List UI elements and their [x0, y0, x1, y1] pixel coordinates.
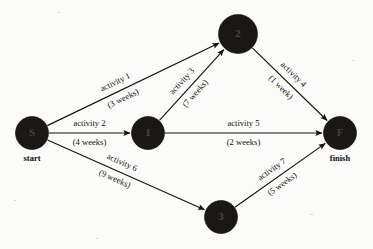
edge-label-group: activity 4(1 week)	[266, 59, 309, 102]
node-label-S: S	[29, 126, 35, 138]
node-1[interactable]: 1	[132, 117, 165, 150]
edge-activity-3	[159, 50, 223, 121]
node-label-F: F	[337, 126, 344, 138]
node-label-2: 2	[235, 27, 241, 39]
edge-activity-name: activity 2	[73, 118, 105, 128]
edge-activity-4	[252, 48, 327, 121]
edge-activity-7	[235, 143, 325, 207]
edge-activity-duration: (4 weeks)	[73, 137, 107, 147]
edge-activity-1	[47, 43, 219, 126]
node-caption-F: finish	[330, 153, 351, 163]
edge-activity-6	[48, 140, 205, 210]
node-label-3: 3	[218, 210, 224, 222]
edge-label-group: activity 1(3 weeks)	[98, 70, 141, 110]
activity-network-diagram: Sstart123Ffinish activity 1(3 weeks)acti…	[0, 0, 373, 249]
node-caption-S: start	[24, 153, 41, 163]
node-label-1: 1	[145, 126, 151, 138]
node-S[interactable]: Sstart	[16, 117, 49, 163]
node-2[interactable]: 2	[219, 15, 258, 54]
node-3[interactable]: 3	[205, 201, 238, 234]
edge-labels-layer: activity 1(3 weeks)activity 2(4 weeks)ac…	[73, 59, 310, 197]
edge-label-group: activity 7(5 weeks)	[255, 155, 299, 197]
edge-activity-name: activity 5	[227, 118, 259, 128]
edge-label-group: activity 6(9 weeks)	[98, 151, 140, 190]
scan-noise	[14, 12, 354, 239]
edge-activity-duration: (9 weeks)	[98, 167, 133, 190]
nodes-layer: Sstart123Ffinish	[16, 15, 357, 234]
node-F[interactable]: Ffinish	[324, 117, 357, 163]
network-canvas: Sstart123Ffinish activity 1(3 weeks)acti…	[0, 0, 373, 249]
edge-activity-duration: (2 weeks)	[227, 137, 261, 147]
